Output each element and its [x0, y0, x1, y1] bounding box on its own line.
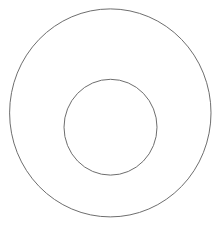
diagram-canvas	[0, 0, 214, 226]
background	[0, 0, 214, 226]
